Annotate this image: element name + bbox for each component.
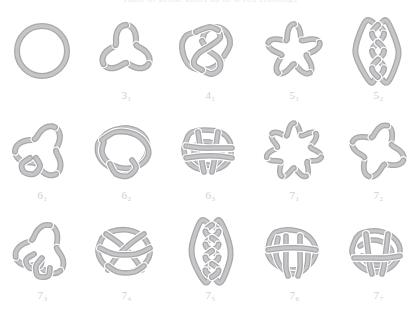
knot-cell-75[interactable]: 75: [168, 214, 252, 314]
knot-label-main: 5: [290, 89, 296, 101]
knot-cell-77[interactable]: 77: [336, 214, 420, 314]
knot-label-subscript: 1: [212, 95, 216, 103]
knot-label-main: 6: [38, 189, 44, 201]
knot-label-subscript: 1: [296, 95, 300, 103]
knot-label-main: 5: [374, 89, 380, 101]
knot-diagram-six-three-knot: [168, 114, 252, 192]
knot-label-main: 6: [206, 189, 212, 201]
knot-label-main: 7: [38, 289, 44, 301]
knot-diagram-six-two-knot: [84, 114, 168, 192]
knot-cell-52[interactable]: 52: [336, 14, 420, 114]
knot-label-subscript: 7: [380, 295, 384, 303]
knot-label-62: 62: [122, 190, 131, 201]
knot-label-76: 76: [290, 290, 299, 301]
knot-diagram-seven-six-knot: [252, 214, 336, 292]
knot-diagram-stevedore-knot: [0, 114, 84, 192]
knot-label-subscript: 3: [212, 195, 216, 203]
knot-label-main: 7: [290, 189, 296, 201]
knot-label-main: 3: [122, 89, 128, 101]
knot-cell-76[interactable]: 76: [252, 214, 336, 314]
knot-cell-74[interactable]: 74: [84, 214, 168, 314]
knot-label-74: 74: [122, 290, 131, 301]
knot-label-31: 31: [122, 90, 131, 101]
knot-label-subscript: 2: [380, 95, 384, 103]
knot-diagram-seven-five-knot: [168, 214, 252, 292]
knot-cell-73[interactable]: 73: [0, 214, 84, 314]
knot-diagram-seven-three-knot: [0, 214, 84, 292]
knot-cell-61[interactable]: 61: [0, 114, 84, 214]
knot-diagram-seven-four-knot: [84, 214, 168, 292]
knot-label-52: 52: [374, 90, 383, 101]
knot-label-subscript: 6: [296, 295, 300, 303]
knot-diagram-trefoil-knot: [84, 14, 168, 92]
knot-label-72: 72: [374, 190, 383, 201]
knot-cell-71[interactable]: 71: [252, 114, 336, 214]
knot-label-75: 75: [206, 290, 215, 301]
knot-label-51: 51: [290, 90, 299, 101]
knot-diagram-figure-eight-knot: [168, 14, 252, 92]
knot-label-subscript: 2: [380, 195, 384, 203]
knot-diagram-three-twist-knot: [336, 14, 420, 92]
knot-label-main: 7: [206, 289, 212, 301]
knot-label-main: 4: [206, 89, 212, 101]
table-header-text: Table of prime knots up to seven crossin…: [0, 0, 420, 3]
knot-label-71: 71: [290, 190, 299, 201]
knot-diagram-seven-two-knot: [336, 114, 420, 192]
knot-label-63: 63: [206, 190, 215, 201]
knot-label-41: 41: [206, 90, 215, 101]
knot-table-grid: 3141515261626371727374757677: [0, 14, 420, 314]
knot-diagram-cinquefoil-knot: [252, 14, 336, 92]
knot-label-77: 77: [374, 290, 383, 301]
knot-label-main: 7: [290, 289, 296, 301]
knot-label-73: 73: [38, 290, 47, 301]
knot-label-subscript: 5: [212, 295, 216, 303]
knot-cell-63[interactable]: 63: [168, 114, 252, 214]
knot-label-main: 7: [122, 289, 128, 301]
knot-cell-51[interactable]: 51: [252, 14, 336, 114]
knot-label-subscript: 1: [296, 195, 300, 203]
knot-label-subscript: 1: [44, 195, 48, 203]
knot-label-subscript: 3: [44, 295, 48, 303]
knot-label-61: 61: [38, 190, 47, 201]
knot-cell-72[interactable]: 72: [336, 114, 420, 214]
knot-cell-unknot[interactable]: [0, 14, 84, 114]
knot-diagram-septafoil-knot: [252, 114, 336, 192]
knot-cell-31[interactable]: 31: [84, 14, 168, 114]
knot-label-subscript: 1: [128, 95, 132, 103]
knot-label-main: 6: [122, 189, 128, 201]
knot-cell-62[interactable]: 62: [84, 114, 168, 214]
knot-label-subscript: 4: [128, 295, 132, 303]
knot-cell-41[interactable]: 41: [168, 14, 252, 114]
knot-label-subscript: 2: [128, 195, 132, 203]
knot-label-main: 7: [374, 289, 380, 301]
knot-diagram-unknot: [0, 14, 84, 92]
knot-label-main: 7: [374, 189, 380, 201]
knot-diagram-seven-seven-knot: [336, 214, 420, 292]
